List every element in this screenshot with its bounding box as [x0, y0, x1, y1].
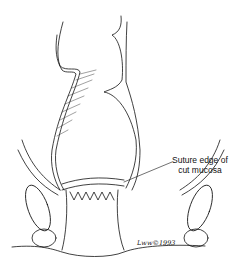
annotation-line-2: cut mucosa	[172, 165, 228, 175]
annotation-line-1: Suture edge of	[172, 155, 228, 165]
artist-signature: Lww©1993	[137, 239, 176, 247]
right-bowel-wall	[104, 16, 140, 190]
suture-line	[62, 162, 172, 200]
shading-hatch	[57, 70, 96, 136]
anatomical-illustration	[0, 0, 241, 273]
annotation-label: Suture edge of cut mucosa	[172, 155, 228, 175]
